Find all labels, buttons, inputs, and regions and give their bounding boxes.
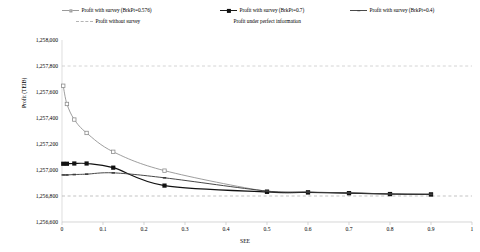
y-tick-label: 1,258,000 xyxy=(14,37,58,43)
legend-item-brkpt-07[interactable]: Profit with survey (BrkPt=0.7) xyxy=(220,7,304,14)
legend-key-dash-marker-icon xyxy=(350,7,367,14)
data-point-marker xyxy=(65,162,69,166)
data-point-marker xyxy=(112,150,115,153)
legend-key-filled-square-icon xyxy=(220,7,237,14)
legend-key-blank-icon xyxy=(214,18,231,25)
y-tick-label: 1,256,800 xyxy=(14,193,58,199)
series-line-marker-open-square xyxy=(62,84,433,196)
y-tick-label: 1,257,200 xyxy=(14,141,58,147)
data-point-marker xyxy=(85,173,88,175)
series-line-marker-filled-square xyxy=(61,161,433,196)
data-point-marker xyxy=(85,131,88,134)
legend-label: Profit with survey (BrkPt=0.576) xyxy=(82,8,152,14)
x-tick-label: 0.6 xyxy=(305,226,312,232)
legend-item-brkpt-04[interactable]: Profit with survey (BrkPt=0.4) xyxy=(350,7,434,14)
legend-key-open-square-icon xyxy=(62,7,79,14)
data-point-marker xyxy=(162,184,166,188)
y-tick-label: 1,257,400 xyxy=(14,115,58,121)
x-tick-label: 0.2 xyxy=(141,226,148,232)
x-tick-label: 0.3 xyxy=(182,226,189,232)
series-line-marker-dash xyxy=(62,172,433,195)
y-tick-label: 1,257,600 xyxy=(14,89,58,95)
data-point-marker xyxy=(65,174,68,176)
x-tick-label: 0.1 xyxy=(100,226,107,232)
series-line xyxy=(63,86,431,195)
data-point-marker xyxy=(112,172,115,174)
data-point-marker xyxy=(72,161,76,165)
data-point-marker xyxy=(73,174,76,176)
x-tick-label: 0.4 xyxy=(223,226,230,232)
data-point-marker xyxy=(73,118,76,121)
data-point-marker xyxy=(265,190,268,192)
legend-label: Profit with survey (BrkPt=0.7) xyxy=(240,8,305,14)
data-point-marker xyxy=(306,191,309,193)
legend-label: Profit with survey (BrkPt=0.4) xyxy=(370,8,435,14)
plot-area xyxy=(0,0,480,252)
x-tick-label: 0.9 xyxy=(428,226,435,232)
data-point-marker xyxy=(163,169,166,172)
legend-label: Profit without survey xyxy=(96,19,141,25)
series-line xyxy=(63,163,431,194)
data-point-marker xyxy=(62,84,65,87)
x-tick-label: 1 xyxy=(471,226,474,232)
x-tick-label: 0.5 xyxy=(264,226,271,232)
y-tick-label: 1,257,800 xyxy=(14,63,58,69)
data-point-marker xyxy=(85,161,89,165)
x-axis-title-text: SEE xyxy=(240,238,250,244)
y-tick-label: 1,257,000 xyxy=(14,167,58,173)
data-point-marker xyxy=(429,194,432,196)
x-axis-title: SEE xyxy=(0,238,480,244)
data-point-marker xyxy=(388,193,391,195)
legend-key-dashed-line-icon xyxy=(76,18,93,25)
y-tick-label: 1,256,600 xyxy=(14,219,58,225)
data-point-marker xyxy=(62,174,65,176)
y-axis-tick-labels: 1,256,6001,256,8001,257,0001,257,2001,25… xyxy=(14,0,58,252)
data-point-marker xyxy=(61,162,65,166)
x-tick-label: 0.7 xyxy=(346,226,353,232)
x-tick-label: 0 xyxy=(61,226,64,232)
data-point-marker xyxy=(65,102,68,105)
legend-item-perfect-information[interactable]: Profit under perfect information xyxy=(214,18,301,25)
data-point-marker xyxy=(163,177,166,179)
chart-container: Profit with survey (BrkPt=0.576) Profit … xyxy=(0,0,480,252)
x-tick-label: 0.8 xyxy=(387,226,394,232)
data-point-marker xyxy=(347,192,350,194)
legend-label: Profit under perfect information xyxy=(234,19,301,25)
data-point-marker xyxy=(111,166,115,170)
legend-item-brkpt-0576[interactable]: Profit with survey (BrkPt=0.576) xyxy=(62,7,152,14)
legend-item-without-survey[interactable]: Profit without survey xyxy=(76,18,140,25)
